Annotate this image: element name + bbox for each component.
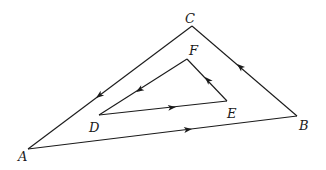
- inner-triangle: [99, 59, 227, 115]
- edge-b-c: [192, 26, 297, 116]
- outer-triangle: [28, 26, 297, 149]
- edge-a-b: [28, 116, 297, 149]
- vertex-label-d: D: [88, 120, 100, 135]
- vertex-label-f: F: [188, 43, 199, 58]
- vertex-label-c: C: [185, 11, 195, 26]
- vertex-label-e: E: [226, 106, 237, 121]
- edge-c-a: [28, 26, 192, 149]
- triangle-diagram: C F D E B A: [0, 0, 326, 170]
- vertex-label-a: A: [17, 149, 27, 164]
- vertex-label-b: B: [298, 118, 309, 133]
- arrow-icon-c-to-a: [94, 91, 104, 101]
